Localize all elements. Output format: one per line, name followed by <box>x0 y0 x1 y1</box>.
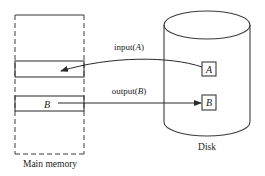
memory-slot-2-label: B <box>44 99 50 110</box>
disk: A B Disk <box>164 11 250 152</box>
output-operation: output(B) <box>58 86 201 103</box>
main-memory: B Main memory <box>15 15 84 169</box>
input-operation: input(A) <box>61 42 202 71</box>
block-transfer-diagram: B Main memory A B Disk input(A) output(B… <box>0 0 265 176</box>
output-label: output(B) <box>112 86 147 96</box>
disk-cylinder-top <box>164 11 250 39</box>
input-label: input(A) <box>114 42 144 52</box>
disk-cylinder-body <box>164 25 250 136</box>
main-memory-label: Main memory <box>23 159 77 169</box>
disk-label: Disk <box>198 142 216 152</box>
disk-block-b-label: B <box>206 97 212 108</box>
memory-buffer-slot-1 <box>15 61 84 77</box>
disk-block-a-label: A <box>205 64 213 75</box>
